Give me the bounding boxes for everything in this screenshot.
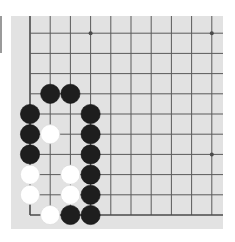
black-stone[interactable] xyxy=(20,104,39,123)
white-stone[interactable] xyxy=(61,185,80,204)
star-point xyxy=(210,31,214,35)
go-board[interactable] xyxy=(11,16,223,229)
black-stone[interactable] xyxy=(20,125,39,144)
white-stone[interactable] xyxy=(41,205,60,224)
star-point xyxy=(210,152,214,156)
black-stone[interactable] xyxy=(61,84,80,103)
white-stone[interactable] xyxy=(20,165,39,184)
white-stone[interactable] xyxy=(41,125,60,144)
black-stone[interactable] xyxy=(81,205,100,224)
black-stone[interactable] xyxy=(61,205,80,224)
star-point xyxy=(89,31,93,35)
black-stone[interactable] xyxy=(20,145,39,164)
side-bar xyxy=(0,16,2,53)
black-stone[interactable] xyxy=(81,145,100,164)
black-stone[interactable] xyxy=(81,125,100,144)
black-stone[interactable] xyxy=(41,84,60,103)
board-grid[interactable] xyxy=(11,16,223,229)
white-stone[interactable] xyxy=(61,165,80,184)
black-stone[interactable] xyxy=(81,104,100,123)
black-stone[interactable] xyxy=(81,165,100,184)
white-stone[interactable] xyxy=(20,185,39,204)
black-stone[interactable] xyxy=(81,185,100,204)
